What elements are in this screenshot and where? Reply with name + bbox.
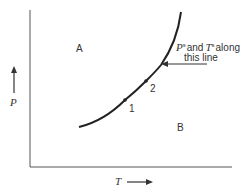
y-axis-label: P: [9, 96, 17, 108]
point-2-marker: [144, 79, 148, 83]
x-arrow-right-icon: [146, 179, 153, 185]
y-arrow-up-icon: [11, 66, 17, 73]
region-b-label: B: [177, 122, 184, 133]
region-a-label: A: [76, 43, 83, 54]
point-2-label: 2: [150, 83, 156, 94]
annotation-line-2: this line: [184, 52, 218, 63]
point-1-marker: [123, 98, 127, 102]
x-axis-label: T: [115, 175, 122, 187]
phase-diagram: 1 2 A B PsandTsalong this line P T: [0, 0, 244, 193]
point-1-label: 1: [129, 103, 135, 114]
